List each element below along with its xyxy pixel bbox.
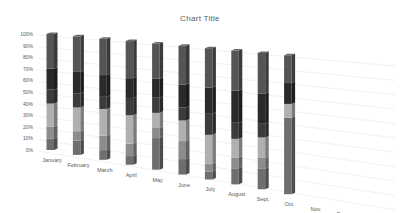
gridline — [38, 151, 395, 210]
bar-segment-side — [54, 137, 58, 150]
bar-segment-side — [54, 125, 58, 138]
gridline — [38, 35, 395, 66]
y-tick-label: 90% — [23, 43, 34, 49]
bar-segment — [126, 115, 134, 143]
bar-segment-side — [292, 116, 296, 194]
x-tick-label: January — [42, 157, 62, 163]
bar-segment-side — [186, 158, 190, 175]
bar-segment-side — [212, 162, 216, 171]
bar-segment — [152, 138, 160, 170]
bar-segment-side — [160, 77, 164, 97]
bar-segment-side — [265, 136, 269, 158]
y-tick-label: 70% — [23, 66, 34, 72]
bar-april — [126, 40, 137, 165]
y-tick-label: 50% — [23, 89, 34, 95]
bar-segment — [231, 51, 239, 91]
bar-segment-side — [107, 134, 111, 150]
bar-segment-side — [133, 40, 137, 79]
bar-segment — [284, 104, 292, 118]
bar-segment-side — [54, 88, 58, 103]
bar-sept — [258, 51, 269, 189]
bar-segment — [152, 98, 160, 113]
chart-title: Chart Title — [180, 14, 220, 23]
bar-segment-side — [54, 102, 58, 127]
bar-segment-side — [212, 86, 216, 114]
chart: Chart Title 0%10%20%30%40%50%60%70%80%90… — [0, 0, 401, 213]
bar-segment-side — [212, 47, 216, 88]
bar-segment-side — [265, 92, 269, 124]
x-tick-label: August — [228, 191, 246, 197]
bar-segment-side — [239, 156, 243, 168]
gridline — [38, 139, 395, 195]
bar-segment — [47, 104, 55, 127]
bar-segment-side — [265, 51, 269, 93]
bar-segment — [179, 84, 187, 107]
bar-segment — [205, 88, 213, 114]
bar-segment — [284, 55, 292, 83]
bar-segment-side — [292, 54, 296, 83]
bar-march — [99, 37, 110, 160]
bar-segment-side — [186, 106, 190, 120]
bar-segment — [205, 164, 213, 172]
bar-segment — [99, 75, 107, 97]
bar-segment-side — [107, 74, 111, 97]
bar-segment — [99, 109, 107, 136]
bar-segment — [126, 156, 134, 165]
bar-segment — [73, 141, 81, 155]
bar-segment-side — [265, 167, 269, 189]
bar-segment — [126, 144, 134, 156]
bar-segment-side — [265, 122, 269, 137]
y-tick-label: 30% — [23, 112, 34, 118]
bar-segment — [179, 159, 187, 174]
bar-segment — [231, 139, 239, 158]
bar-segment — [152, 113, 160, 128]
bar-segment-side — [239, 121, 243, 139]
bar-segment-side — [160, 137, 164, 170]
bar-segment — [47, 138, 55, 150]
y-tick-label: 100% — [20, 31, 33, 37]
bar-segment-side — [133, 77, 137, 98]
bar-segment — [152, 43, 160, 78]
bar-segment — [231, 158, 239, 169]
y-tick-label: 40% — [23, 101, 34, 107]
bar-segment-side — [133, 155, 137, 165]
bar-segment — [47, 127, 55, 139]
bar-segment-side — [186, 140, 190, 160]
bar-segment — [205, 172, 213, 180]
x-tick-label: Dec. — [337, 211, 349, 213]
bar-segment-side — [239, 137, 243, 157]
bar-segment-side — [186, 83, 190, 108]
bar-segment — [205, 135, 213, 164]
bar-july — [205, 47, 216, 180]
bar-segment-side — [80, 130, 84, 141]
bar-segment-side — [80, 139, 84, 155]
bar-segment — [47, 34, 55, 69]
gridline — [38, 116, 395, 167]
bar-segment — [73, 107, 81, 131]
bar-segment-side — [107, 107, 111, 135]
bar-segment — [284, 83, 292, 104]
x-tick-label: April — [126, 172, 137, 178]
bar-segment — [73, 93, 81, 107]
bar-february — [73, 35, 84, 155]
bar-oct — [284, 54, 295, 194]
bar-segment — [47, 69, 55, 90]
bar-segment-side — [107, 149, 111, 160]
bar-segment — [205, 48, 213, 87]
gridline — [38, 81, 395, 123]
bar-segment — [73, 131, 81, 140]
bar-segment-side — [107, 95, 111, 109]
bar-segment-side — [133, 114, 137, 144]
y-tick-label: 80% — [23, 54, 34, 60]
x-tick-label: February — [67, 162, 89, 168]
bar-segment-side — [212, 133, 216, 163]
bar-segment-side — [80, 106, 84, 131]
bar-segment — [73, 36, 81, 72]
x-tick-label: Sept. — [257, 196, 270, 202]
bar-august — [231, 49, 242, 184]
bar-segment — [179, 120, 187, 141]
bar-segment-side — [292, 82, 296, 104]
gridline — [38, 93, 395, 138]
bar-segment — [99, 136, 107, 151]
bar-segment-side — [212, 112, 216, 135]
